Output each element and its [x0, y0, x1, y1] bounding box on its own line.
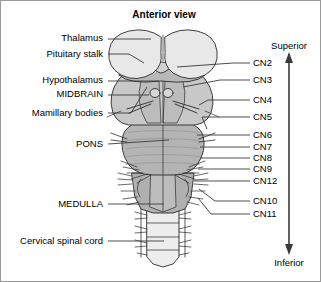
label-hypothalamus: Hypothalamus: [42, 75, 103, 85]
label-cn5: CN5: [253, 112, 272, 122]
mamillary-body-left: [150, 89, 160, 98]
label-medulla: MEDULLA: [58, 199, 103, 209]
label-pituitary-stalk: Pituitary stalk: [47, 49, 104, 59]
label-cn10: CN10: [253, 196, 277, 206]
anterior-view-brainstem-figure: Anterior view Thalamus Pituitary stalk H…: [0, 0, 321, 282]
pons-group: [111, 119, 215, 183]
orientation-arrow: [285, 52, 293, 255]
mamillary-body-right: [163, 89, 173, 98]
label-pons: PONS: [76, 139, 103, 149]
label-superior: Superior: [271, 40, 307, 51]
arrow-head-down: [285, 244, 293, 255]
label-cn6: CN6: [253, 130, 272, 140]
label-midbrain: MIDBRAIN: [57, 89, 103, 99]
label-cn2: CN2: [253, 58, 272, 68]
label-thalamus: Thalamus: [61, 33, 103, 43]
cervical-spinal-cord-group: [135, 205, 191, 267]
page-title: Anterior view: [132, 9, 195, 20]
arrow-head-up: [285, 52, 293, 63]
label-cn9: CN9: [253, 164, 272, 174]
label-cn4: CN4: [253, 95, 272, 105]
label-inferior: Inferior: [274, 257, 304, 268]
label-cn11: CN11: [253, 209, 277, 219]
label-cn7: CN7: [253, 142, 272, 152]
label-cn8: CN8: [253, 153, 272, 163]
label-cervical-spinal-cord: Cervical spinal cord: [20, 236, 103, 246]
label-cn3: CN3: [253, 75, 272, 85]
thalamus-right-lobe: [165, 30, 218, 79]
cervical-spinal-cord: [147, 210, 179, 267]
label-cn12: CN12: [253, 176, 277, 186]
label-mamillary-bodies: Mamillary bodies: [32, 108, 103, 118]
